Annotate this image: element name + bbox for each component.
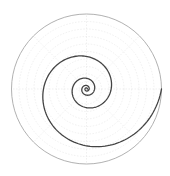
spiral-line xyxy=(43,56,162,147)
polar-grid xyxy=(12,14,162,164)
polar-chart xyxy=(0,0,170,176)
